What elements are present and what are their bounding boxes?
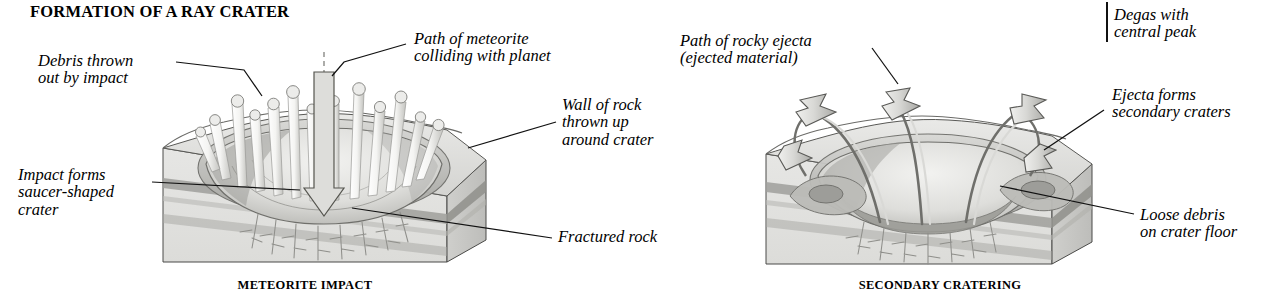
label-fractured-rock: Fractured rock: [558, 228, 657, 245]
leader-path-of-rocky-ejecta: [872, 48, 898, 84]
leader-ejecta-secondary: [1044, 110, 1104, 150]
label-wall-of-rock: Wall of rock thrown up around crater: [562, 96, 654, 148]
label-degas-central-peak: Degas with central peak: [1114, 6, 1196, 41]
label-ejecta-secondary-craters: Ejecta forms secondary craters: [1112, 86, 1231, 121]
label-path-of-meteorite: Path of meteorite colliding with planet: [414, 30, 551, 65]
diagram-artwork: [0, 0, 1273, 301]
label-loose-debris: Loose debris on crater floor: [1140, 206, 1237, 241]
figure-canvas: FORMATION OF A RAY CRATER: [0, 0, 1273, 301]
caption-meteorite-impact: METEORITE IMPACT: [180, 278, 430, 293]
panel-meteorite-impact-art: [163, 52, 486, 262]
caption-secondary-cratering: SECONDARY CRATERING: [800, 278, 1080, 293]
leader-debris-thrown-out: [176, 62, 262, 96]
label-debris-thrown-out: Debris thrown out by impact: [38, 52, 133, 87]
label-impact-forms-crater: Impact forms saucer-shaped crater: [18, 166, 114, 218]
panel-secondary-cratering-art: [766, 88, 1092, 264]
leader-path-of-meteorite: [332, 44, 406, 76]
label-path-of-rocky-ejecta: Path of rocky ejecta (ejected material): [680, 32, 812, 67]
leader-wall-of-rock: [468, 122, 556, 148]
